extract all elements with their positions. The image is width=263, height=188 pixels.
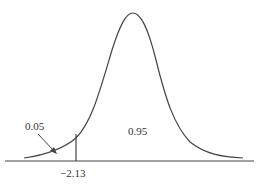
critical-value-label: −2.13 xyxy=(60,168,85,179)
distribution-diagram xyxy=(0,0,263,188)
tail-area-label: 0.05 xyxy=(25,121,44,132)
body-area-label: 0.95 xyxy=(128,126,147,137)
